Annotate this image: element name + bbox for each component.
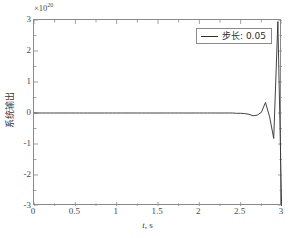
legend-box: 步长: 0.05 xyxy=(196,28,272,44)
x-axis-tick-label: 0 xyxy=(13,207,53,216)
x-axis-title-unit: , s xyxy=(145,220,153,230)
legend-entry-label: 步长: 0.05 xyxy=(222,31,266,41)
y-axis-title: 系统输出 xyxy=(3,75,16,145)
x-axis-tick-label: 2 xyxy=(178,207,218,216)
x-axis-tick-label: 2.5 xyxy=(220,207,260,216)
x-axis-tick-label: 1 xyxy=(96,207,136,216)
series-line xyxy=(34,22,282,206)
data-series-group xyxy=(34,22,282,206)
x-axis-tick-label: 0.5 xyxy=(54,207,94,216)
plot-area xyxy=(33,19,281,205)
plot-svg xyxy=(34,20,282,206)
x-axis-tick-label: 1.5 xyxy=(137,207,177,216)
legend-line-swatch xyxy=(201,36,218,37)
x-axis-tick-label: 3 xyxy=(261,207,295,216)
figure-canvas: ×1020 3210-1-2-3 00.511.522.53 t, s 系统输出… xyxy=(0,0,295,238)
x-axis-title: t, s xyxy=(0,220,295,230)
